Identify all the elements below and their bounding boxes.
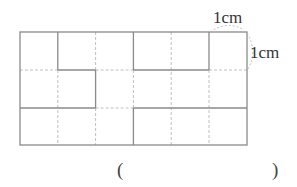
solid-shape-lines <box>20 32 247 145</box>
answer-blank[interactable] <box>130 158 270 180</box>
unit-label-horizontal: 1cm <box>213 9 242 26</box>
answer-paren-open: ( <box>117 160 123 179</box>
unit-label-vertical: 1cm <box>250 44 279 61</box>
answer-paren-close: ) <box>272 160 278 179</box>
